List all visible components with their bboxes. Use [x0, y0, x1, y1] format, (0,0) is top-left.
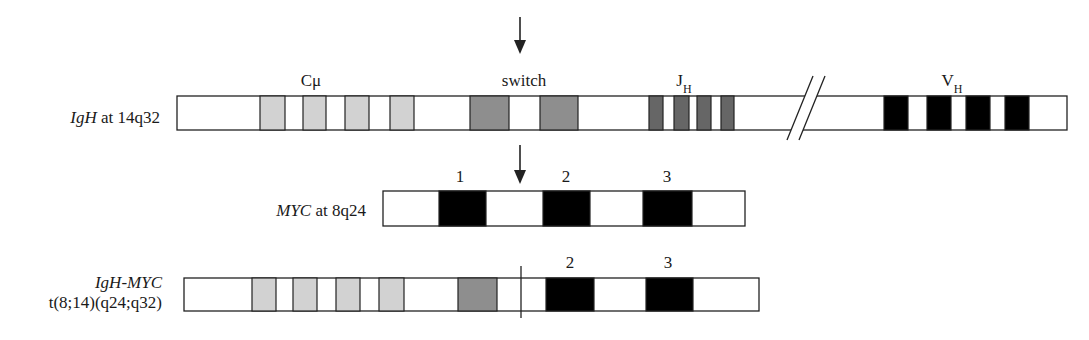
igh-joining-segment	[649, 96, 663, 130]
translocation-diagram: CμswitchJHVHIgH at 14q32123MYC at 8q2423…	[0, 0, 1089, 340]
exon-3-label: 3	[663, 167, 672, 186]
igh-variable-segment	[966, 96, 990, 130]
igh-switch-segment	[470, 96, 509, 130]
igh-switch-breakpoint-arrow	[514, 17, 526, 54]
jh-label: JH	[676, 71, 692, 96]
igh-variable-segment	[884, 96, 908, 130]
fusion-exon-2-label: 2	[566, 253, 575, 272]
c-mu-label: Cμ	[301, 71, 321, 90]
arrow-head-icon	[514, 170, 526, 184]
translocation-notation-label: t(8;14)(q24;q32)	[49, 293, 162, 312]
igh-joining-segment	[674, 96, 689, 130]
igh-switch-segment	[540, 96, 578, 130]
fusion-switch-segment	[458, 278, 497, 311]
exon-2-label: 2	[562, 167, 571, 186]
igh-constant-segment	[303, 96, 326, 130]
igh-variable-segment	[927, 96, 951, 130]
fusion-exon-segment	[646, 278, 693, 311]
fusion-constant-segment	[336, 278, 360, 311]
subscript: H	[954, 82, 963, 96]
exon-1-label: 1	[456, 167, 465, 186]
igh-variable-segment	[1005, 96, 1029, 130]
fusion-exon-segment	[546, 278, 594, 311]
fusion-locus-label: IgH-MYC	[94, 273, 163, 292]
igh-joining-segment	[721, 96, 734, 130]
switch-label: switch	[502, 71, 547, 90]
igh-joining-segment	[697, 96, 711, 130]
locus-myc: 123MYC at 8q24	[275, 167, 745, 226]
myc-locus-label: MYC at 8q24	[275, 201, 366, 220]
igh-myc-translocation-figure: CμswitchJHVHIgH at 14q32123MYC at 8q2423…	[0, 0, 1089, 340]
arrow-head-icon	[514, 40, 526, 54]
fusion-constant-segment	[293, 278, 317, 311]
fusion-constant-segment	[252, 278, 276, 311]
locus-igh: CμswitchJHVHIgH at 14q32	[69, 71, 1067, 140]
igh-locus-label: IgH at 14q32	[69, 108, 160, 127]
subscript: H	[683, 82, 692, 96]
vh-label: VH	[942, 71, 963, 96]
fusion-constant-segment	[379, 278, 404, 311]
igh-constant-segment	[260, 96, 285, 130]
myc-exon-segment	[439, 191, 486, 226]
myc-intron-breakpoint-arrow	[514, 145, 526, 184]
myc-exon-segment	[543, 191, 590, 226]
locus-fusion: 23IgH-MYCt(8;14)(q24;q32)	[49, 253, 759, 318]
fusion-exon-3-label: 3	[664, 253, 673, 272]
igh-constant-segment	[390, 96, 414, 130]
igh-constant-segment	[345, 96, 369, 130]
myc-exon-segment	[643, 191, 692, 226]
